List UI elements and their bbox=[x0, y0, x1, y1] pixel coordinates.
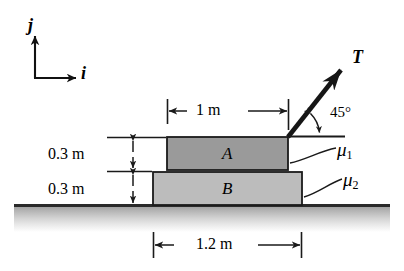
ground-shadow bbox=[14, 206, 390, 232]
angle-arc-arrow bbox=[311, 114, 320, 133]
tension-label: T bbox=[352, 48, 363, 66]
unit-vector-axes bbox=[34, 36, 76, 78]
mu1-subscript: 1 bbox=[347, 148, 353, 162]
block-b-label: B bbox=[222, 180, 232, 197]
mu2-label: μ2 bbox=[343, 170, 359, 189]
dimension-top-width-label: 1 m bbox=[196, 102, 220, 118]
dimension-lower-height-label: 0.3 m bbox=[48, 181, 84, 197]
i-axis-label: i bbox=[81, 64, 86, 82]
j-axis-label: j bbox=[28, 16, 33, 34]
angle-label: 45° bbox=[330, 105, 351, 120]
mu2-leader-line bbox=[304, 179, 342, 197]
mu1-label: μ1 bbox=[337, 140, 353, 159]
block-a-label: A bbox=[222, 145, 232, 162]
physics-diagram: j i 1 m 0.3 m 0.3 m 1.2 m A B T 45° μ1 μ… bbox=[0, 0, 404, 271]
diagram-canvas bbox=[0, 0, 404, 271]
mu1-symbol: μ bbox=[337, 139, 347, 160]
dimension-base-width-label: 1.2 m bbox=[196, 236, 232, 252]
mu2-symbol: μ bbox=[343, 169, 353, 190]
dimension-upper-height-label: 0.3 m bbox=[48, 146, 84, 162]
mu2-subscript: 2 bbox=[353, 178, 359, 192]
dimension-top-width bbox=[168, 99, 289, 130]
ground-surface bbox=[14, 206, 390, 233]
mu1-leader-line bbox=[290, 148, 336, 163]
